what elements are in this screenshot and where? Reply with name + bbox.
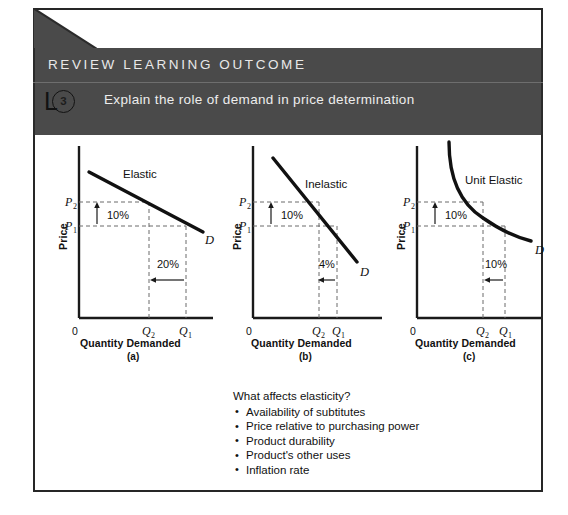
chart-unit-elastic: P 2 P 1 0 Q 2 Q 1 10% 10% Unit Elastic D… (391, 140, 559, 370)
svg-text:10%: 10% (485, 258, 507, 270)
learning-outcome-text: Explain the role of demand in price dete… (104, 92, 415, 107)
page-title: REVIEW LEARNING OUTCOME (48, 57, 307, 72)
elasticity-heading: What affects elasticity? (233, 389, 419, 404)
demand-elasticity-figure: P 2 P 1 0 Q 2 Q 1 10% 20% Elastic D Pric… (35, 140, 541, 370)
svg-text:P: P (238, 195, 247, 209)
chart-b-panel-letter: (b) (299, 351, 312, 362)
chart-c-panel-letter: (c) (463, 351, 475, 362)
header-corner-flag (33, 8, 97, 49)
svg-text:1: 1 (188, 331, 192, 340)
chart-inelastic: P 2 P 1 0 Q 2 Q 1 10% 4% Inelastic D Pri… (227, 140, 395, 370)
svg-text:20%: 20% (157, 258, 179, 270)
svg-text:D: D (204, 233, 214, 247)
svg-text:Q: Q (499, 324, 508, 338)
elasticity-factors-list: Availability of subtitutes Price relativ… (233, 405, 419, 478)
svg-text:10%: 10% (107, 209, 129, 221)
list-item: Inflation rate (233, 463, 419, 478)
learning-outcome-badge: L 3 (44, 88, 75, 114)
chart-elastic: P 2 P 1 0 Q 2 Q 1 10% 20% Elastic D Pric… (53, 140, 221, 370)
svg-text:10%: 10% (281, 209, 303, 221)
svg-text:2: 2 (73, 202, 77, 211)
svg-text:0: 0 (410, 325, 416, 337)
list-item: Availability of subtitutes (233, 405, 419, 420)
svg-text:2: 2 (247, 202, 251, 211)
svg-text:P: P (402, 195, 411, 209)
svg-text:0: 0 (72, 325, 78, 337)
lo-number-circle-icon: 3 (52, 90, 75, 113)
svg-text:1: 1 (247, 226, 251, 235)
chart-a-y-axis-label: Price (57, 223, 69, 250)
svg-text:Q: Q (312, 324, 321, 338)
svg-text:Q: Q (142, 324, 151, 338)
list-item: Product's other uses (233, 448, 419, 463)
svg-text:1: 1 (73, 226, 77, 235)
chart-a-x-axis-label: Quantity Demanded (80, 337, 181, 349)
elasticity-factors-block: What affects elasticity? Availability of… (233, 389, 419, 478)
chart-c-y-axis-label: Price (395, 223, 407, 250)
svg-text:D: D (359, 265, 369, 279)
chart-b-y-axis-label: Price (231, 223, 243, 250)
svg-text:Q: Q (332, 324, 341, 338)
svg-text:D: D (534, 243, 544, 257)
svg-text:Q: Q (179, 324, 188, 338)
svg-text:1: 1 (411, 226, 415, 235)
svg-text:0: 0 (246, 325, 252, 337)
svg-text:2: 2 (411, 202, 415, 211)
chart-c-x-axis-label: Quantity Demanded (415, 337, 516, 349)
list-item: Product durability (233, 434, 419, 449)
svg-text:4%: 4% (319, 258, 335, 270)
list-item: Price relative to purchasing power (233, 419, 419, 434)
header-divider (33, 82, 543, 83)
chart-a-panel-letter: (a) (127, 351, 139, 362)
svg-text:Inelastic: Inelastic (305, 178, 347, 190)
demand-curve-elastic (89, 172, 203, 232)
svg-text:P: P (64, 195, 73, 209)
svg-text:10%: 10% (445, 209, 467, 221)
svg-text:Elastic: Elastic (123, 168, 157, 180)
svg-text:Unit Elastic: Unit Elastic (465, 174, 523, 186)
svg-text:Q: Q (476, 324, 485, 338)
chart-b-x-axis-label: Quantity Demanded (251, 337, 352, 349)
